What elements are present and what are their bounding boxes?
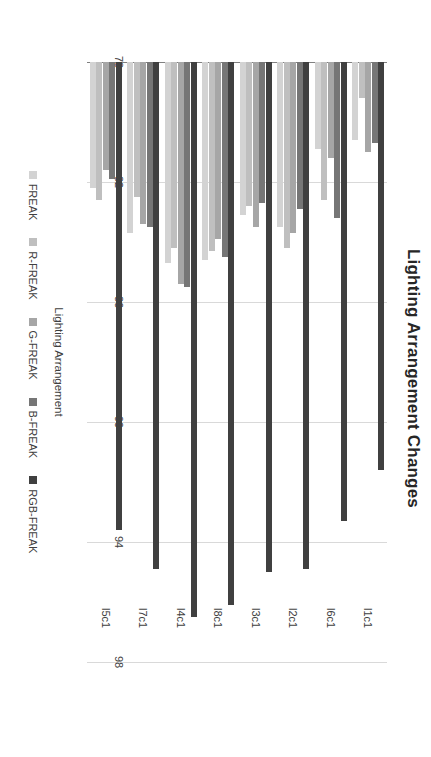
bar (202, 62, 208, 260)
category-label: l3c1 (250, 608, 262, 628)
bar (228, 62, 234, 605)
legend-item[interactable]: B-FREAK (27, 398, 39, 459)
legend-item[interactable]: G-FREAK (27, 318, 39, 380)
bar (103, 62, 109, 170)
bar (372, 62, 378, 143)
bar (147, 62, 153, 227)
bar-group (240, 62, 272, 662)
chart-legend: FREAKR-FREAKG-FREAKB-FREAKRGB-FREAK (27, 62, 39, 662)
legend-item[interactable]: R-FREAK (27, 238, 39, 299)
bar (246, 62, 252, 206)
bar (266, 62, 272, 572)
bar (284, 62, 290, 248)
bar-group (165, 62, 197, 662)
bar-group (127, 62, 159, 662)
chart-figure: Lighting Arrangement Changes Accuracy (%… (0, 0, 431, 757)
bar (109, 62, 115, 179)
plot-inner (87, 62, 387, 662)
bar (297, 62, 303, 209)
category-label: l7c1 (137, 608, 149, 628)
bar (328, 62, 334, 158)
legend-swatch-icon (29, 476, 37, 484)
legend-item[interactable]: FREAK (27, 171, 39, 221)
bar (341, 62, 347, 521)
bar (359, 62, 365, 98)
bar (222, 62, 228, 257)
value-tick-label: 94 (113, 536, 125, 548)
bar (277, 62, 283, 227)
bar (215, 62, 221, 239)
category-label: l8c1 (212, 608, 224, 628)
bar (378, 62, 384, 470)
bar (290, 62, 296, 233)
bar (140, 62, 146, 224)
chart-title: Lighting Arrangement Changes (403, 0, 423, 757)
bar (303, 62, 309, 569)
bar (184, 62, 190, 287)
bar (365, 62, 371, 152)
value-tick-label: 90 (113, 416, 125, 428)
category-label: l4c1 (175, 608, 187, 628)
plot-area (87, 62, 387, 662)
bar (321, 62, 327, 200)
legend-swatch-icon (29, 238, 37, 246)
bar (178, 62, 184, 284)
bar (165, 62, 171, 263)
bar (352, 62, 358, 140)
value-tick-label: 82 (113, 176, 125, 188)
rotated-figure-frame: Lighting Arrangement Changes Accuracy (%… (0, 0, 431, 757)
bar-group (315, 62, 347, 662)
bar (253, 62, 259, 227)
legend-label: B-FREAK (27, 411, 39, 459)
value-tick-label: 98 (113, 656, 125, 668)
legend-label: G-FREAK (27, 331, 39, 380)
bar (127, 62, 133, 233)
category-label: l1c1 (362, 608, 374, 628)
bar-group (202, 62, 234, 662)
bar (240, 62, 246, 215)
bar (191, 62, 197, 617)
gridline (87, 662, 387, 663)
legend-swatch-icon (29, 171, 37, 179)
category-label: l2c1 (287, 608, 299, 628)
bar (153, 62, 159, 569)
legend-label: R-FREAK (27, 251, 39, 299)
bar (259, 62, 265, 203)
bar (171, 62, 177, 248)
bar (209, 62, 215, 251)
bar (96, 62, 102, 200)
bar-group (277, 62, 309, 662)
legend-swatch-icon (29, 318, 37, 326)
x-axis-title: Lighting Arrangement (53, 62, 65, 662)
category-label: l6c1 (325, 608, 337, 628)
bar-group (352, 62, 384, 662)
value-tick-label: 86 (113, 296, 125, 308)
bar (134, 62, 140, 197)
value-tick-label: 78 (113, 56, 125, 68)
legend-label: RGB-FREAK (27, 489, 39, 553)
bar-group (90, 62, 122, 662)
legend-label: FREAK (27, 184, 39, 221)
category-label: l5c1 (100, 608, 112, 628)
bar (90, 62, 96, 188)
bar (334, 62, 340, 218)
legend-item[interactable]: RGB-FREAK (27, 476, 39, 553)
bar (315, 62, 321, 149)
legend-swatch-icon (29, 398, 37, 406)
